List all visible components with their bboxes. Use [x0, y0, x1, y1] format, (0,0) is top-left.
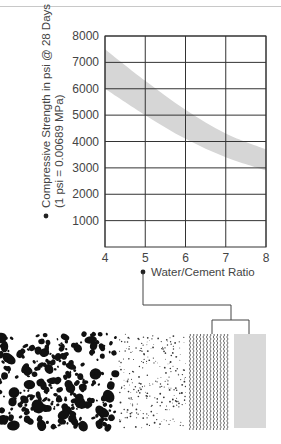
- y-axis-label-group: Compressive Strength in psi @ 28 Days (1…: [40, 4, 65, 219]
- cement-texture: [234, 334, 266, 428]
- y-tick-label: 7000: [72, 55, 99, 69]
- x-axis-label: Water/Cement Ratio: [151, 266, 255, 278]
- y-tick-label: 6000: [72, 82, 99, 96]
- x-tick-label: 6: [182, 251, 189, 265]
- y-tick-label: 4000: [72, 135, 99, 149]
- y-tick-label: 3000: [72, 161, 99, 175]
- x-tick-label: 7: [222, 251, 229, 265]
- connector-lines: [143, 273, 249, 334]
- y-axis-label: Compressive Strength in psi @ 28 Days: [40, 4, 52, 208]
- bullet-icon: [44, 214, 49, 219]
- chart-grid: [105, 36, 266, 247]
- y-tick-label: 5000: [72, 108, 99, 122]
- strength-vs-wc-ratio-chart: 10002000300040005000600070008000 45678 C…: [0, 0, 281, 444]
- water-texture: [189, 334, 228, 430]
- y-axis-sublabel: (1 psi = 0.00689 MPa): [53, 94, 65, 208]
- coarse-aggregate-texture: [0, 331, 120, 434]
- x-axis-ticks: 45678: [102, 251, 270, 265]
- y-tick-label: 8000: [72, 29, 99, 43]
- x-tick-label: 5: [142, 251, 149, 265]
- x-tick-label: 8: [263, 251, 270, 265]
- fine-aggregate-texture: [119, 334, 187, 428]
- y-axis-ticks: 10002000300040005000600070008000: [72, 29, 99, 228]
- y-tick-label: 2000: [72, 187, 99, 201]
- x-tick-label: 4: [102, 251, 109, 265]
- y-tick-label: 1000: [72, 214, 99, 228]
